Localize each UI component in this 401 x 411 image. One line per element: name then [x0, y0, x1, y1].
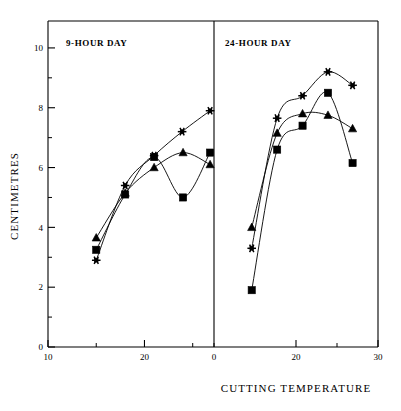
- panel-series-9-hour-day: [92, 107, 214, 264]
- data-point-square: [179, 194, 186, 201]
- series-square: [248, 89, 356, 294]
- data-point-triangle: [150, 163, 158, 171]
- svg-text:0: 0: [39, 342, 44, 352]
- data-point-triangle: [248, 223, 256, 231]
- data-series-group: [92, 68, 357, 294]
- data-point-square: [349, 159, 356, 166]
- panel-title-right: 24-HOUR DAY: [225, 38, 292, 48]
- data-point-square: [248, 287, 255, 294]
- data-point-star: [324, 68, 333, 75]
- svg-text:2: 2: [39, 282, 44, 292]
- figure-canvas: 0246810102002030 9-HOUR DAY 24-HOUR DAY …: [0, 0, 401, 411]
- svg-text:10: 10: [44, 352, 54, 362]
- y-axis-title: CENTIMETRES: [8, 152, 20, 240]
- svg-text:20: 20: [140, 352, 150, 362]
- data-point-star: [92, 257, 101, 264]
- series-star: [92, 107, 214, 264]
- data-point-triangle: [179, 148, 187, 156]
- data-point-triangle: [92, 234, 100, 242]
- x-axis-title: CUTTING TEMPERATURE: [221, 382, 372, 394]
- data-point-square: [274, 146, 281, 153]
- svg-text:6: 6: [39, 163, 44, 173]
- data-point-star: [247, 245, 256, 252]
- data-point-square: [324, 89, 331, 96]
- panel-series-24-hour-day: [247, 68, 356, 294]
- svg-text:8: 8: [39, 103, 44, 113]
- svg-text:10: 10: [34, 43, 44, 53]
- data-point-square: [206, 149, 213, 156]
- svg-text:4: 4: [39, 223, 44, 233]
- panel-title-left: 9-HOUR DAY: [66, 38, 127, 48]
- svg-text:20: 20: [292, 352, 302, 362]
- data-point-square: [299, 122, 306, 129]
- data-point-triangle: [348, 124, 356, 131]
- series-star: [247, 68, 356, 252]
- data-point-triangle: [206, 160, 214, 168]
- data-point-star: [273, 114, 282, 121]
- svg-text:0: 0: [212, 352, 217, 362]
- series-triangle: [92, 148, 214, 241]
- svg-text:30: 30: [374, 352, 384, 362]
